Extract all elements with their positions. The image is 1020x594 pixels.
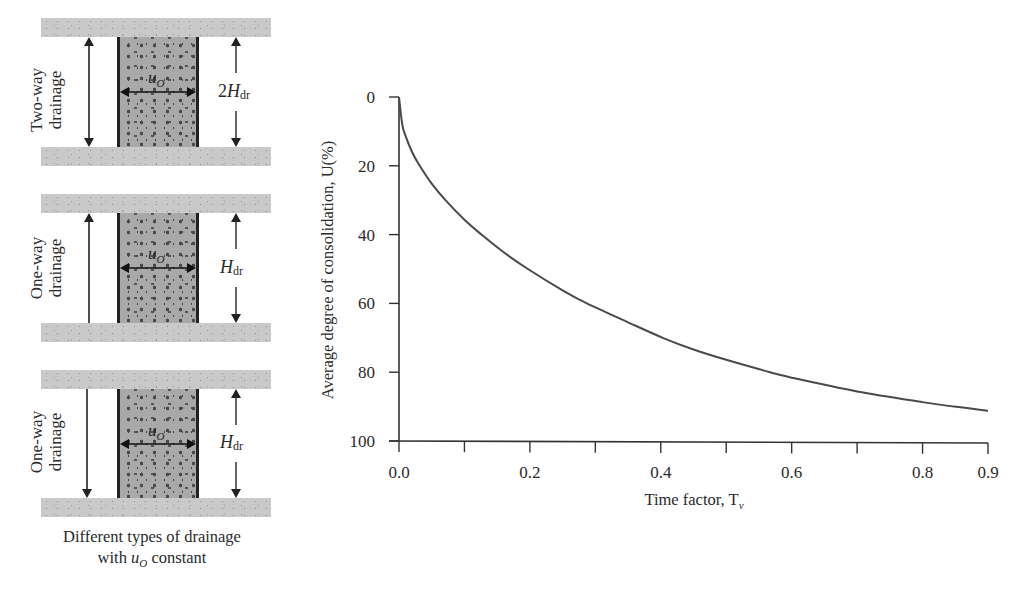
consolidation-curve xyxy=(399,97,988,411)
consolidation-chart: 0204060801000.00.20.40.60.80.9 Average d… xyxy=(0,0,1020,594)
y-tick-label: 40 xyxy=(358,226,375,245)
y-tick-label: 100 xyxy=(350,432,376,451)
x-tick-label: 0.6 xyxy=(781,463,802,482)
chart-axes: 0204060801000.00.20.40.60.80.9 xyxy=(350,88,999,482)
y-axis-title: Average degree of consolidation, U(%) xyxy=(318,141,337,400)
x-axis-title: Time factor, Tv xyxy=(644,490,743,511)
y-tick-label: 0 xyxy=(367,88,376,107)
y-tick-label: 80 xyxy=(358,363,375,382)
y-tick-label: 20 xyxy=(358,157,375,176)
x-tick-label: 0.4 xyxy=(650,463,672,482)
x-tick-label: 0.9 xyxy=(977,463,998,482)
y-tick-label: 60 xyxy=(358,294,375,313)
x-tick-label: 0.8 xyxy=(912,463,933,482)
x-tick-label: 0.2 xyxy=(519,463,540,482)
x-axis-line xyxy=(389,441,988,443)
x-tick-label: 0.0 xyxy=(388,463,409,482)
